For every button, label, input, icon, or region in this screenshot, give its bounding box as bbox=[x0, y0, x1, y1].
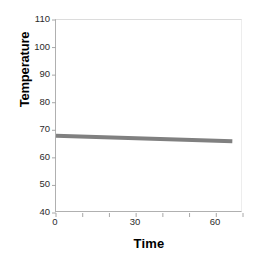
x-tick-label: 30 bbox=[120, 217, 150, 227]
y-tick-label: 110 bbox=[16, 14, 50, 24]
x-axis-title: Time bbox=[55, 236, 243, 251]
plot-area bbox=[55, 19, 242, 212]
y-tick-label: 90 bbox=[16, 69, 50, 79]
x-tick-label: 0 bbox=[40, 217, 70, 227]
y-tick-marks bbox=[52, 20, 56, 213]
x-axis-tick-labels: 0 30 60 bbox=[0, 217, 258, 231]
plot-svg bbox=[56, 20, 243, 213]
y-tick-label: 70 bbox=[16, 124, 50, 134]
y-tick-label: 80 bbox=[16, 97, 50, 107]
temperature-vs-time-line-chart: Temperature 110 100 90 80 70 60 50 40 bbox=[0, 0, 258, 260]
data-series-line bbox=[56, 136, 232, 142]
x-tick-label: 60 bbox=[200, 217, 230, 227]
y-tick-label: 60 bbox=[16, 152, 50, 162]
y-tick-label: 100 bbox=[16, 42, 50, 52]
y-tick-label: 50 bbox=[16, 179, 50, 189]
y-tick-label: 40 bbox=[16, 207, 50, 217]
